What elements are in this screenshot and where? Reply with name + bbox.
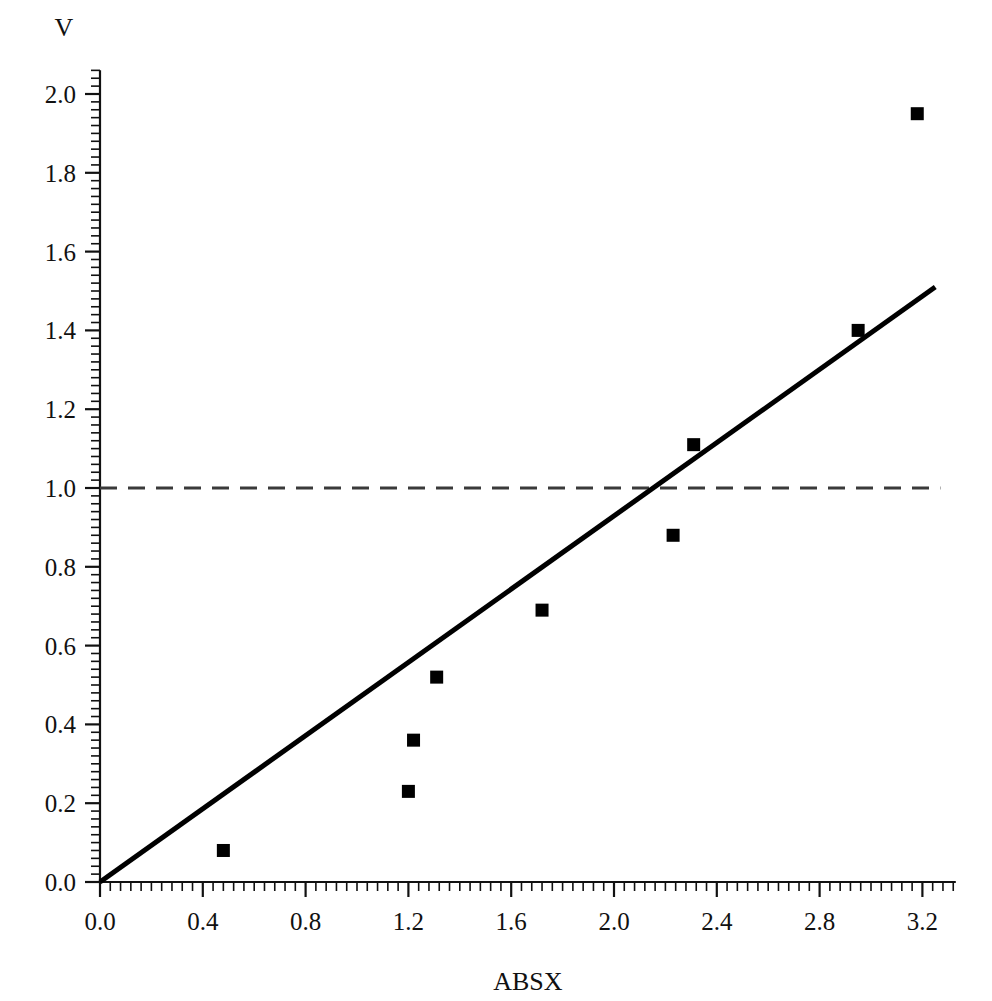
- y-tick-label: 1.8: [45, 160, 76, 187]
- axis-titles: VABSX: [55, 13, 563, 996]
- axes: 0.00.40.81.21.62.02.42.83.20.00.20.40.60…: [45, 70, 956, 935]
- y-tick-label: 0.0: [45, 869, 76, 896]
- y-tick-label: 0.6: [45, 633, 76, 660]
- data-point-marker: [217, 844, 230, 857]
- data-point-marker: [536, 604, 549, 617]
- x-tick-label: 1.6: [496, 908, 527, 935]
- y-tick-label: 0.2: [45, 790, 76, 817]
- scatter-plot: 0.00.40.81.21.62.02.42.83.20.00.20.40.60…: [0, 0, 992, 1001]
- data-point-marker: [402, 785, 415, 798]
- y-tick-label: 0.4: [45, 711, 77, 738]
- chart-page: 0.00.40.81.21.62.02.42.83.20.00.20.40.60…: [0, 0, 992, 1001]
- x-tick-label: 0.0: [84, 908, 115, 935]
- x-axis-title: ABSX: [493, 967, 563, 996]
- x-tick-label: 2.8: [804, 908, 835, 935]
- data-points: [217, 107, 924, 857]
- x-tick-label: 2.0: [598, 908, 629, 935]
- data-point-marker: [687, 438, 700, 451]
- x-tick-label: 3.2: [907, 908, 938, 935]
- y-tick-label: 1.2: [45, 396, 76, 423]
- x-tick-label: 0.8: [290, 908, 321, 935]
- data-point-marker: [407, 734, 420, 747]
- y-tick-label: 2.0: [45, 81, 76, 108]
- fitted-trend-line: [100, 287, 935, 882]
- data-point-marker: [430, 671, 443, 684]
- data-point-marker: [852, 324, 865, 337]
- y-axis-title: V: [55, 13, 74, 42]
- x-tick-label: 0.4: [187, 908, 219, 935]
- data-point-marker: [911, 107, 924, 120]
- y-tick-label: 1.0: [45, 475, 76, 502]
- data-point-marker: [667, 529, 680, 542]
- y-tick-label: 1.6: [45, 239, 76, 266]
- y-tick-label: 1.4: [45, 317, 77, 344]
- x-tick-label: 1.2: [393, 908, 424, 935]
- y-tick-label: 0.8: [45, 554, 76, 581]
- x-tick-label: 2.4: [701, 908, 733, 935]
- fit-line: [100, 287, 935, 882]
